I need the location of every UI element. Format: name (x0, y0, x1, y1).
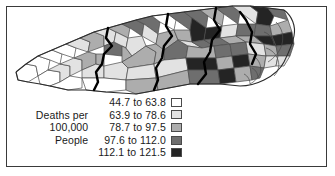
legend-item[interactable]: 112.1 to 121.5 (98, 146, 182, 159)
legend-label: 112.1 to 121.5 (98, 146, 166, 159)
legend-item[interactable]: 44.7 to 63.8 (98, 96, 182, 109)
legend-swatch (171, 110, 182, 119)
legend-swatch (171, 98, 182, 107)
legend-label: 97.6 to 112.0 (104, 134, 166, 147)
legend-class-list: 44.7 to 63.8 63.9 to 78.6 78.7 to 97.5 9… (98, 96, 182, 159)
legend-label: 44.7 to 63.8 (109, 96, 166, 109)
legend-label: 63.9 to 78.6 (109, 109, 166, 122)
legend-swatch (171, 123, 182, 132)
choropleth-figure: Deaths per 100,000 People 44.7 to 63.8 6… (0, 0, 335, 176)
legend-label: 78.7 to 97.5 (109, 121, 166, 134)
legend-swatch (171, 136, 182, 145)
legend-item[interactable]: 63.9 to 78.6 (98, 109, 182, 122)
map-legend: Deaths per 100,000 People 44.7 to 63.8 6… (22, 96, 182, 159)
legend-title: Deaths per 100,000 People (22, 109, 88, 147)
legend-item[interactable]: 78.7 to 97.5 (98, 121, 182, 134)
legend-item[interactable]: 97.6 to 112.0 (98, 134, 182, 147)
legend-swatch (171, 148, 182, 157)
